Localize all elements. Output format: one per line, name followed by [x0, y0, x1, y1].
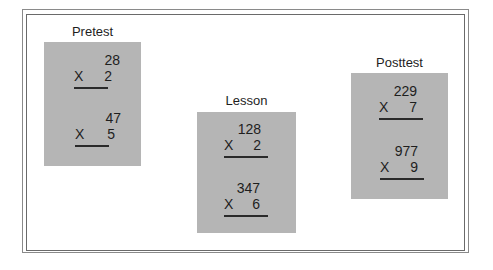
times-sign: X: [380, 159, 389, 175]
lesson-card: 128 X 2 347 X 6: [197, 112, 296, 233]
multiplier: 9: [410, 159, 418, 175]
answer-line: [224, 156, 268, 158]
multiplier: 2: [253, 137, 261, 153]
times-sign: X: [74, 68, 83, 84]
answer-line: [74, 87, 108, 89]
multiplicand: 347: [237, 180, 260, 196]
multiplier: 2: [104, 68, 112, 84]
answer-line: [224, 215, 268, 217]
times-sign: X: [224, 196, 233, 212]
multiplicand: 977: [395, 143, 418, 159]
posttest-title: Posttest: [351, 55, 448, 70]
answer-line: [379, 118, 423, 120]
multiplicand: 128: [238, 121, 261, 137]
pretest-title: Pretest: [44, 24, 141, 39]
times-sign: X: [224, 137, 233, 153]
times-sign: X: [379, 99, 388, 115]
answer-line: [380, 178, 424, 180]
lesson-title: Lesson: [197, 93, 296, 108]
multiplicand: 229: [394, 83, 417, 99]
pretest-card: 28 X 2 47 X 5: [44, 42, 141, 166]
multiplier: 7: [409, 99, 417, 115]
posttest-card: 229 X 7 977 X 9: [351, 73, 448, 199]
multiplier: 6: [252, 196, 260, 212]
answer-line: [75, 145, 109, 147]
multiplicand: 28: [104, 52, 120, 68]
multiplier: 5: [107, 126, 115, 142]
times-sign: X: [75, 126, 84, 142]
multiplicand: 47: [105, 110, 121, 126]
